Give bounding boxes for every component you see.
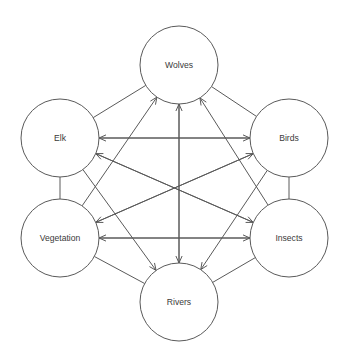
node-label-birds: Birds <box>279 133 299 143</box>
arrowhead <box>200 98 206 106</box>
node-wolves[interactable]: Wolves <box>140 26 218 104</box>
edge-insects-to-vegetation <box>99 235 250 241</box>
graph-svg: WolvesElkBirdsVegetationInsectsRivers <box>0 0 347 361</box>
node-birds[interactable]: Birds <box>250 99 328 177</box>
node-vegetation[interactable]: Vegetation <box>21 199 99 277</box>
node-rivers[interactable]: Rivers <box>140 263 218 341</box>
edge-vegetation-to-rivers <box>94 256 144 283</box>
node-label-wolves: Wolves <box>165 60 193 70</box>
arrowhead <box>201 262 207 270</box>
node-label-insects: Insects <box>275 233 302 243</box>
node-insects[interactable]: Insects <box>250 199 328 277</box>
edge-wolves-to-elk <box>93 85 146 117</box>
edge-insects-to-rivers <box>213 258 256 283</box>
edge-wolves-to-birds <box>212 87 257 117</box>
node-label-elk: Elk <box>54 133 67 143</box>
node-elk[interactable]: Elk <box>21 99 99 177</box>
edge-wolves-to-rivers <box>176 104 182 263</box>
node-layer: WolvesElkBirdsVegetationInsectsRivers <box>21 26 328 341</box>
diagram-canvas: WolvesElkBirdsVegetationInsectsRivers <box>0 0 347 361</box>
arrowhead <box>150 97 157 105</box>
node-label-rivers: Rivers <box>167 297 191 307</box>
node-label-vegetation: Vegetation <box>40 233 81 243</box>
